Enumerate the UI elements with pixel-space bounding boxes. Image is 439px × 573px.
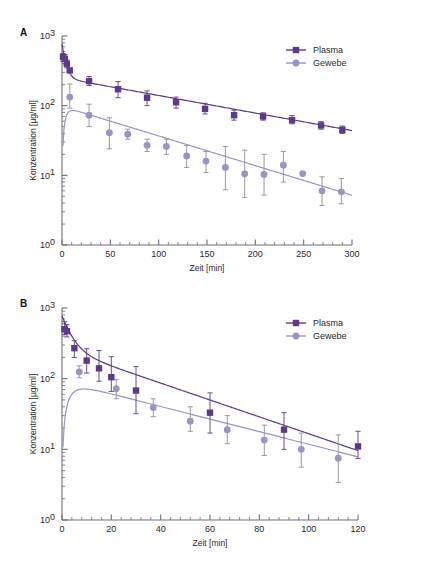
data-point-gewebe bbox=[183, 153, 190, 160]
data-point-gewebe bbox=[338, 188, 345, 195]
figure-root: A 100101102103050100150200250300Zeit [mi… bbox=[0, 0, 439, 573]
x-tick-label: 150 bbox=[199, 249, 214, 259]
data-point-gewebe bbox=[224, 426, 231, 433]
x-tick-label: 0 bbox=[59, 524, 64, 534]
series-plasma bbox=[61, 322, 361, 459]
legend-marker-plasma bbox=[293, 47, 299, 53]
y-tick-label: 100 bbox=[40, 237, 55, 251]
data-point-gewebe bbox=[76, 368, 83, 375]
x-tick-label: 80 bbox=[254, 524, 264, 534]
data-point-gewebe bbox=[144, 142, 151, 149]
data-point-plasma bbox=[339, 127, 345, 133]
data-point-gewebe bbox=[106, 129, 113, 136]
series-gewebe bbox=[66, 84, 344, 205]
data-point-gewebe bbox=[261, 171, 268, 178]
data-point-gewebe bbox=[203, 158, 210, 165]
y-axis-title: Konzentration [µg/ml] bbox=[28, 100, 38, 181]
legend: PlasmaGewebe bbox=[286, 45, 347, 68]
data-point-plasma bbox=[133, 387, 139, 393]
legend-label-gewebe: Gewebe bbox=[313, 58, 347, 68]
data-point-gewebe bbox=[124, 131, 131, 138]
y-tick-label: 103 bbox=[40, 300, 55, 314]
x-tick-label: 20 bbox=[106, 524, 116, 534]
data-point-plasma bbox=[202, 106, 208, 112]
y-tick-label: 101 bbox=[40, 441, 55, 455]
data-point-gewebe bbox=[222, 164, 229, 171]
x-tick-label: 120 bbox=[350, 524, 365, 534]
data-point-plasma bbox=[83, 357, 89, 363]
data-point-plasma bbox=[67, 67, 73, 73]
data-point-gewebe bbox=[280, 162, 287, 169]
y-tick-label: 102 bbox=[40, 97, 55, 111]
y-tick-label: 102 bbox=[40, 370, 55, 384]
legend-marker-gewebe bbox=[293, 60, 300, 67]
y-tick-label: 103 bbox=[40, 28, 55, 42]
data-point-gewebe bbox=[261, 437, 268, 444]
data-point-plasma bbox=[260, 113, 266, 119]
panel-b: B 100101102103020406080100120Zeit [min]K… bbox=[0, 290, 439, 573]
legend-marker-plasma bbox=[293, 320, 299, 326]
legend: PlasmaGewebe bbox=[286, 318, 347, 341]
legend-label-gewebe: Gewebe bbox=[313, 331, 347, 341]
data-point-gewebe bbox=[86, 112, 93, 119]
x-tick-label: 50 bbox=[105, 249, 115, 259]
data-point-gewebe bbox=[319, 187, 326, 194]
data-point-plasma bbox=[96, 365, 102, 371]
data-point-plasma bbox=[144, 95, 150, 101]
panel-a: A 100101102103050100150200250300Zeit [mi… bbox=[0, 0, 439, 290]
x-tick-label: 100 bbox=[301, 524, 316, 534]
data-point-gewebe bbox=[66, 94, 73, 101]
y-tick-label: 101 bbox=[40, 167, 55, 181]
panel-b-plot: 100101102103020406080100120Zeit [min]Kon… bbox=[0, 290, 439, 573]
data-point-plasma bbox=[318, 122, 324, 128]
data-point-plasma bbox=[108, 374, 114, 380]
y-tick-label: 100 bbox=[40, 512, 55, 526]
data-point-plasma bbox=[64, 328, 70, 334]
data-point-gewebe bbox=[241, 170, 248, 177]
panel-a-plot: 100101102103050100150200250300Zeit [min]… bbox=[0, 0, 439, 290]
data-point-gewebe bbox=[335, 455, 342, 462]
legend-label-plasma: Plasma bbox=[313, 318, 343, 328]
data-point-plasma bbox=[289, 117, 295, 123]
data-point-plasma bbox=[71, 345, 77, 351]
legend-label-plasma: Plasma bbox=[313, 45, 343, 55]
data-point-plasma bbox=[207, 409, 213, 415]
fit-curve-plasma bbox=[62, 44, 352, 130]
data-point-gewebe bbox=[298, 446, 305, 453]
series-gewebe bbox=[76, 366, 342, 483]
data-point-gewebe bbox=[187, 418, 194, 425]
x-tick-label: 250 bbox=[296, 249, 311, 259]
data-point-plasma bbox=[64, 61, 70, 67]
fit-curve-gewebe bbox=[63, 389, 358, 457]
data-point-plasma bbox=[86, 78, 92, 84]
y-axis-title: Konzentration [µg/ml] bbox=[28, 374, 38, 455]
x-tick-label: 0 bbox=[59, 249, 64, 259]
data-point-plasma bbox=[173, 99, 179, 105]
x-tick-label: 200 bbox=[248, 249, 263, 259]
data-point-plasma bbox=[231, 112, 237, 118]
data-point-plasma bbox=[355, 443, 361, 449]
data-point-gewebe bbox=[163, 143, 170, 150]
data-point-gewebe bbox=[299, 170, 306, 177]
x-tick-label: 100 bbox=[151, 249, 166, 259]
x-axis-title: Zeit [min] bbox=[193, 538, 228, 548]
x-tick-label: 300 bbox=[344, 249, 359, 259]
x-axis-title: Zeit [min] bbox=[190, 263, 225, 273]
data-point-plasma bbox=[281, 426, 287, 432]
x-tick-label: 40 bbox=[156, 524, 166, 534]
x-tick-label: 60 bbox=[205, 524, 215, 534]
data-point-gewebe bbox=[150, 404, 157, 411]
legend-marker-gewebe bbox=[293, 333, 300, 340]
data-point-plasma bbox=[115, 86, 121, 92]
